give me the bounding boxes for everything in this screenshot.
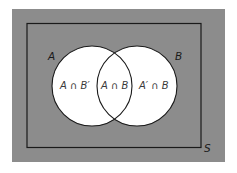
- region-a-only-label: A ∩ B′: [59, 80, 90, 91]
- venn-diagram: A B S A ∩ B′ A ∩ B A′ ∩ B: [0, 0, 237, 173]
- region-b-only-label: A′ ∩ B: [138, 80, 169, 91]
- universe-label: S: [204, 142, 211, 154]
- set-a-label: A: [47, 50, 55, 62]
- set-b-label: B: [175, 50, 182, 62]
- region-intersection-label: A ∩ B: [100, 80, 129, 91]
